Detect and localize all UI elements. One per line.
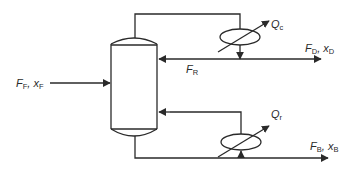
condenser: [218, 21, 269, 59]
bottoms-label: FB, xB: [310, 140, 338, 154]
overhead-vapor-line: [135, 14, 240, 38]
distillate-label: FD, xD: [305, 42, 335, 56]
distillation-column: [111, 38, 157, 136]
bottoms-line: [135, 136, 328, 158]
condenser-duty-arrow-icon: [218, 21, 269, 52]
reboiler-return-line: [159, 112, 241, 134]
feed-label: FF, xF: [16, 77, 44, 91]
reflux-label: FR: [186, 63, 199, 77]
reboiler-duty-label: Qr: [271, 108, 283, 122]
reboiler: [218, 126, 269, 158]
distillation-diagram: FF, xF Qc FD, xD FR Qr FB, xB: [0, 0, 353, 170]
condenser-duty-label: Qc: [271, 18, 284, 32]
